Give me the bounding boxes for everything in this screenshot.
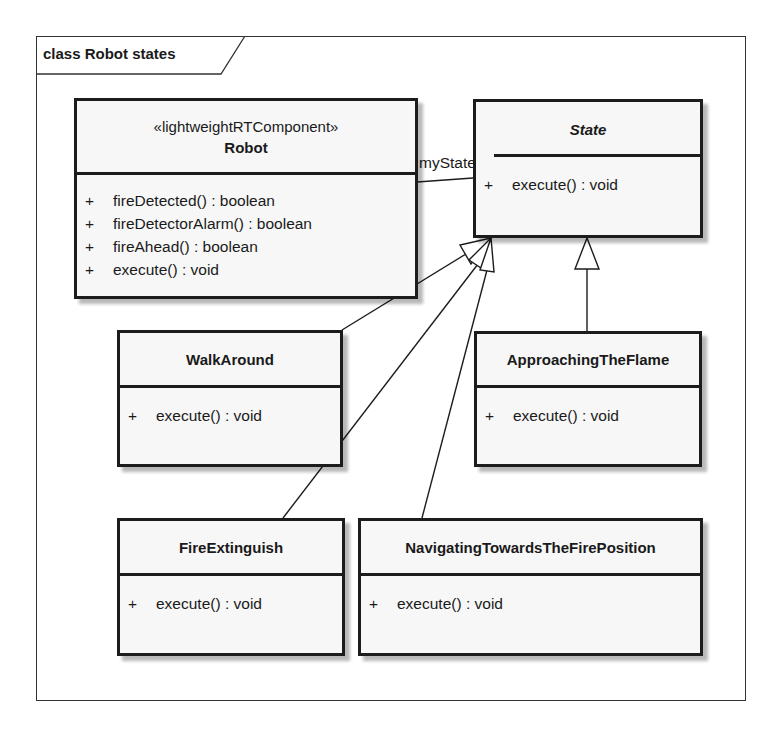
- visibility-public: +: [476, 173, 508, 196]
- visibility-public: +: [77, 258, 109, 281]
- class-state-header: State: [476, 102, 700, 157]
- visibility-public: +: [477, 404, 509, 427]
- class-navigating-name: NavigatingTowardsTheFirePosition: [405, 537, 656, 558]
- operation-signature: execute() : void: [109, 258, 219, 281]
- class-navigating-header: NavigatingTowardsTheFirePosition: [361, 521, 700, 576]
- class-state[interactable]: State + execute() : void: [473, 99, 703, 238]
- frame-title: class Robot states: [43, 45, 176, 62]
- visibility-public: +: [77, 235, 109, 258]
- class-robot[interactable]: «lightweightRTComponent» Robot + fireDet…: [74, 98, 418, 299]
- operation-row[interactable]: + execute() : void: [77, 258, 415, 281]
- class-navigatingtowardsthefireposition[interactable]: NavigatingTowardsTheFirePosition + execu…: [358, 518, 703, 656]
- class-fireextinguish-name: FireExtinguish: [179, 537, 283, 558]
- operation-signature: execute() : void: [152, 592, 262, 615]
- class-state-operations: + execute() : void: [476, 157, 700, 196]
- class-approachingtheflame-name: ApproachingTheFlame: [507, 349, 670, 370]
- visibility-public: +: [77, 212, 109, 235]
- visibility-public: +: [361, 592, 393, 615]
- operation-row[interactable]: + execute() : void: [120, 592, 342, 615]
- class-fireextinguish-operations: + execute() : void: [120, 576, 342, 615]
- class-robot-name: Robot: [224, 137, 267, 158]
- class-approachingtheflame[interactable]: ApproachingTheFlame + execute() : void: [474, 331, 702, 467]
- operation-signature: execute() : void: [152, 404, 262, 427]
- association-role-label: myState: [419, 154, 476, 172]
- visibility-public: +: [120, 592, 152, 615]
- class-state-divider: [494, 154, 700, 157]
- class-robot-header: «lightweightRTComponent» Robot: [77, 101, 415, 175]
- class-robot-operations: + fireDetected() : boolean + fireDetecto…: [77, 175, 415, 281]
- operation-row[interactable]: + execute() : void: [476, 173, 700, 196]
- class-walkaround[interactable]: WalkAround + execute() : void: [117, 330, 343, 467]
- operation-row[interactable]: + fireDetected() : boolean: [77, 189, 415, 212]
- operation-row[interactable]: + execute() : void: [477, 404, 699, 427]
- class-walkaround-operations: + execute() : void: [120, 388, 340, 427]
- operation-row[interactable]: + fireAhead() : boolean: [77, 235, 415, 258]
- class-state-name: State: [570, 119, 607, 140]
- operation-signature: execute() : void: [509, 404, 619, 427]
- operation-signature: execute() : void: [508, 173, 618, 196]
- operation-signature: fireDetected() : boolean: [109, 189, 275, 212]
- operation-signature: fireAhead() : boolean: [109, 235, 258, 258]
- operation-row[interactable]: + fireDetectorAlarm() : boolean: [77, 212, 415, 235]
- visibility-public: +: [120, 404, 152, 427]
- visibility-public: +: [77, 189, 109, 212]
- operation-row[interactable]: + execute() : void: [120, 404, 340, 427]
- operation-signature: execute() : void: [393, 592, 503, 615]
- class-robot-stereotype: «lightweightRTComponent»: [154, 116, 339, 137]
- operation-signature: fireDetectorAlarm() : boolean: [109, 212, 312, 235]
- class-fireextinguish-header: FireExtinguish: [120, 521, 342, 576]
- operation-row[interactable]: + execute() : void: [361, 592, 700, 615]
- class-walkaround-name: WalkAround: [186, 349, 274, 370]
- class-approachingtheflame-operations: + execute() : void: [477, 388, 699, 427]
- class-navigating-operations: + execute() : void: [361, 576, 700, 615]
- class-fireextinguish[interactable]: FireExtinguish + execute() : void: [117, 518, 345, 656]
- class-approachingtheflame-header: ApproachingTheFlame: [477, 334, 699, 388]
- class-walkaround-header: WalkAround: [120, 333, 340, 388]
